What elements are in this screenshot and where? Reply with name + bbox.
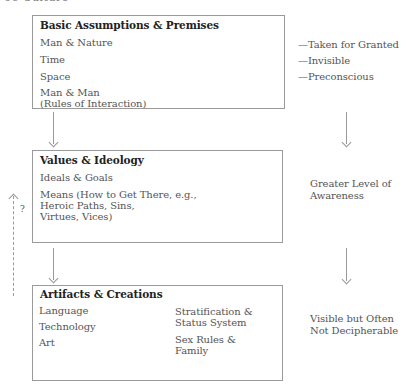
- item-technology: Technology: [39, 321, 96, 332]
- item-language: Language: [39, 305, 88, 316]
- item-ideals-goals: Ideals & Goals: [40, 172, 113, 183]
- item-time: Time: [40, 54, 65, 65]
- feedback-dashed-arrow: [13, 196, 14, 296]
- label-taken-for-granted: —Taken for Granted: [298, 39, 399, 51]
- label-awareness: Awareness: [310, 190, 364, 202]
- arrowhead-down-icon: [49, 138, 59, 148]
- item-man-man: Man & Man: [40, 87, 100, 98]
- arrowhead-down-icon: [342, 138, 352, 148]
- label-greater-level: Greater Level of: [310, 178, 391, 190]
- item-rules-interaction: (Rules of Interaction): [40, 98, 146, 109]
- item-virtues-vices: Virtues, Vices): [40, 211, 112, 222]
- arrowhead-down-icon: [342, 275, 352, 285]
- label-invisible: —Invisible: [298, 55, 350, 67]
- label-preconscious: —Preconscious: [298, 71, 374, 83]
- box-title: Basic Assumptions & Premises: [40, 19, 219, 31]
- item-sex-rules: Sex Rules &: [175, 334, 236, 345]
- box-title: Values & Ideology: [40, 154, 144, 166]
- item-family: Family: [175, 345, 208, 356]
- item-heroic-paths: Heroic Paths, Sins,: [40, 200, 135, 211]
- feedback-question-mark: ?: [20, 203, 25, 215]
- box-values-ideology: Values & Ideology Ideals & Goals Means (…: [32, 150, 283, 243]
- box-artifacts-creations: Artifacts & Creations Language Technolog…: [32, 285, 283, 381]
- item-means: Means (How to Get There, e.g.,: [40, 189, 197, 200]
- item-art: Art: [39, 337, 55, 348]
- item-space: Space: [40, 71, 70, 82]
- item-status-system: Status System: [175, 317, 246, 328]
- box-title: Artifacts & Creations: [40, 288, 162, 300]
- label-visible-but-often: Visible but Often: [310, 313, 394, 325]
- box-basic-assumptions: Basic Assumptions & Premises Man & Natur…: [32, 15, 285, 109]
- item-man-nature: Man & Nature: [40, 37, 113, 48]
- page-header-cut: 66 Culture: [4, 0, 69, 4]
- label-not-decipherable: Not Decipherable: [310, 325, 398, 337]
- arrowhead-down-icon: [49, 274, 59, 284]
- item-stratification: Stratification &: [175, 306, 252, 317]
